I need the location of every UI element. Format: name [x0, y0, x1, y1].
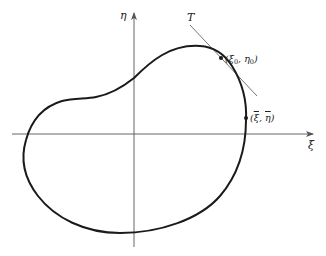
paren-close: )	[271, 112, 275, 123]
closed-curve	[23, 46, 246, 233]
eta-axis-label: η	[120, 10, 127, 21]
tangent-label: T	[187, 12, 194, 23]
point-xibar-etabar-label: (ξ, η)	[250, 113, 274, 123]
diagram-figure: η ξ T (ξ0, η0) (ξ, η)	[0, 0, 326, 256]
point-xibar-etabar	[244, 116, 248, 120]
point-xi0-eta0-label: (ξ0, η0)	[225, 54, 258, 66]
point-xi0-eta0	[219, 56, 223, 60]
diagram-canvas	[0, 0, 326, 256]
xi-axis-label: ξ	[308, 140, 314, 151]
paren-close: )	[254, 53, 258, 64]
